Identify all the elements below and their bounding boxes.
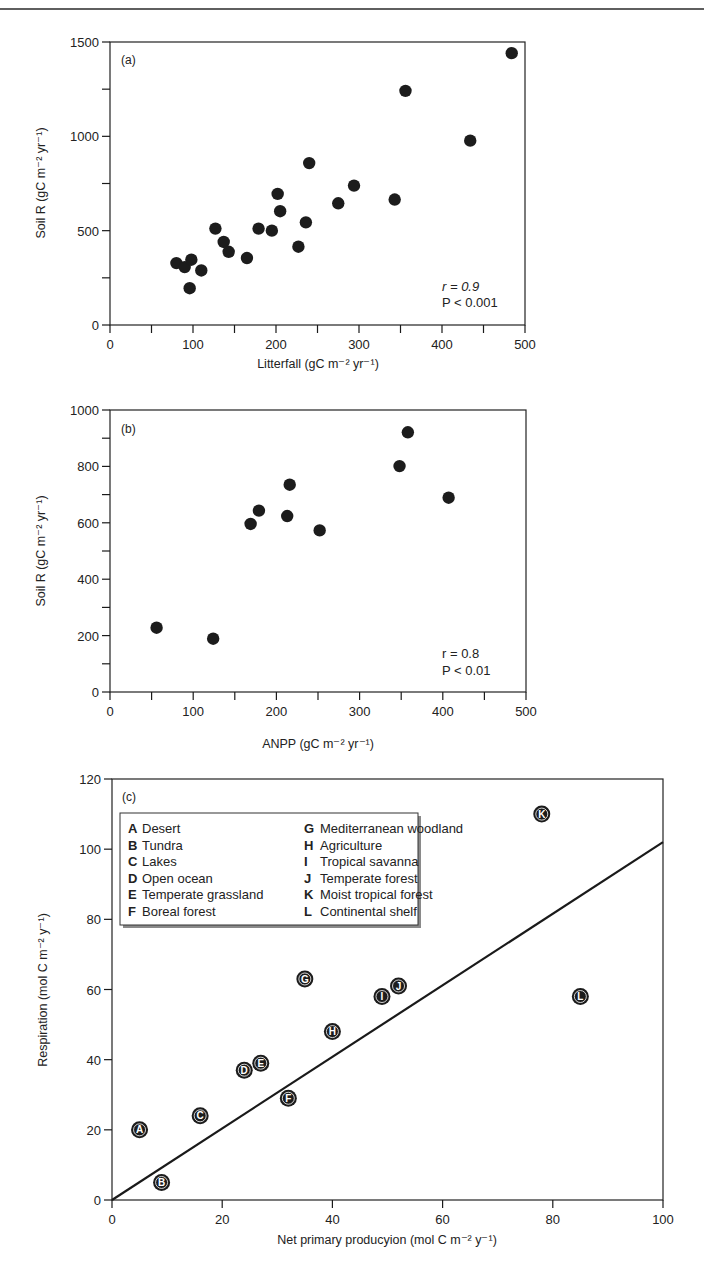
correlation-r: r = 0.9 (442, 279, 479, 294)
y-tick-label: 600 (77, 516, 99, 531)
panel-label: (b) (121, 422, 136, 436)
x-tick-label: 400 (431, 337, 453, 352)
y-tick-label: 200 (77, 629, 99, 644)
x-tick-label: 500 (514, 337, 536, 352)
marker-letter: J (396, 981, 402, 992)
legend-key: L (304, 904, 312, 919)
y-tick-label: 0 (92, 318, 99, 333)
legend-key: H (304, 838, 313, 853)
legend-label: Temperate grassland (142, 887, 263, 902)
panel-label: (c) (122, 790, 136, 804)
data-point (252, 222, 264, 234)
y-tick-label: 80 (87, 912, 101, 927)
data-point (183, 282, 195, 294)
data-point (300, 216, 312, 228)
legend: ADesertBTundraCLakesDOpen oceanETemperat… (120, 813, 463, 928)
data-point (185, 254, 197, 266)
data-point (253, 504, 265, 516)
x-tick-label: 400 (432, 704, 454, 719)
legend-key: K (304, 887, 314, 902)
legend-key: I (304, 854, 308, 869)
legend-key: B (128, 838, 137, 853)
y-tick-label: 1000 (70, 129, 99, 144)
marker-letter: H (329, 1026, 336, 1037)
data-point (399, 85, 411, 97)
x-tick-label: 20 (215, 1212, 229, 1227)
figure: 0100200300400500050010001500 (a) r = 0.9… (0, 0, 704, 1277)
y-tick-label: 60 (87, 983, 101, 998)
legend-item: ITropical savanna (304, 854, 419, 869)
x-tick-label: 100 (182, 337, 204, 352)
marker-letter: G (301, 974, 309, 985)
legend-key: F (128, 904, 136, 919)
y-tick-label: 100 (79, 842, 101, 857)
legend-label: Open ocean (142, 871, 213, 886)
legend-label: Boreal forest (142, 904, 216, 919)
y-axis-label: Soil R (gC m⁻² yr⁻¹) (34, 495, 48, 606)
y-tick-label: 400 (77, 572, 99, 587)
data-point (244, 518, 256, 530)
legend-key: D (128, 871, 137, 886)
legend-label: Desert (142, 821, 181, 836)
y-tick-label: 120 (79, 772, 101, 787)
legend-label: Agriculture (320, 838, 382, 853)
legend-label: Moist tropical forest (320, 887, 433, 902)
p-value: P < 0.01 (442, 663, 491, 678)
y-tick-label: 0 (92, 685, 99, 700)
legend-label: Lakes (142, 854, 177, 869)
legend-key: G (304, 821, 314, 836)
data-point (442, 492, 454, 504)
x-tick-label: 300 (349, 704, 371, 719)
data-point (150, 622, 162, 634)
x-tick-label: 500 (515, 704, 537, 719)
x-tick-label: 0 (106, 337, 113, 352)
legend-item: BTundra (128, 838, 183, 853)
y-tick-label: 500 (77, 224, 99, 239)
legend-key: C (128, 854, 138, 869)
data-point (506, 47, 518, 59)
legend-item: FBoreal forest (128, 904, 216, 919)
data-point (402, 426, 414, 438)
y-axis-label: Respiration (mol C m⁻² y⁻¹) (36, 913, 50, 1067)
data-point (207, 633, 219, 645)
legend-item: JTemperate forest (304, 871, 418, 886)
x-tick-label: 0 (106, 704, 113, 719)
data-point (266, 224, 278, 236)
panel-a-litterfall-vs-soil-respiration: 0100200300400500050010001500 (a) r = 0.9… (34, 35, 536, 371)
data-point (274, 205, 286, 217)
legend-label: Tropical savanna (320, 854, 419, 869)
legend-item: GMediterranean woodland (304, 821, 463, 836)
data-point (332, 197, 344, 209)
x-tick-label: 60 (435, 1212, 449, 1227)
data-point (195, 264, 207, 276)
legend-label: Continental shelf (320, 904, 417, 919)
marker-letter: C (197, 1110, 204, 1121)
data-point (284, 479, 296, 491)
marker-letter: L (577, 991, 583, 1002)
x-tick-label: 40 (325, 1212, 339, 1227)
x-tick-label: 200 (265, 337, 287, 352)
data-points (170, 47, 518, 294)
data-point (388, 193, 400, 205)
legend-item: LContinental shelf (304, 904, 417, 919)
legend-item: CLakes (128, 854, 177, 869)
marker-letter: E (257, 1058, 264, 1069)
x-tick-label: 300 (348, 337, 370, 352)
x-tick-label: 0 (108, 1212, 115, 1227)
y-axis-label: Soil R (gC m⁻² yr⁻¹) (34, 127, 48, 238)
p-value: P < 0.001 (442, 295, 498, 310)
data-point (209, 222, 221, 234)
legend-label: Mediterranean woodland (320, 821, 463, 836)
x-axis-label: Net primary producyion (mol C m⁻² y⁻¹) (277, 1233, 497, 1247)
marker-letter: B (158, 1177, 165, 1188)
marker-letter: I (381, 991, 384, 1002)
data-point (271, 188, 283, 200)
x-tick-label: 200 (266, 704, 288, 719)
panel-c-npp-vs-respiration: 020406080100020406080100120 ABCDEFGHIJKL… (36, 772, 674, 1247)
y-tick-label: 0 (94, 1193, 101, 1208)
data-point (464, 134, 476, 146)
data-point (281, 510, 293, 522)
legend-label: Tundra (142, 838, 183, 853)
marker-letter: A (136, 1124, 143, 1135)
correlation-r: r = 0.8 (442, 646, 479, 661)
